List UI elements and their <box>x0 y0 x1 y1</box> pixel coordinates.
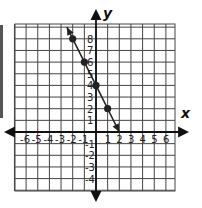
y-axis-label: y <box>103 5 113 21</box>
grid-border <box>15 24 175 191</box>
y-tick-label: 2 <box>87 104 93 115</box>
data-point <box>81 59 88 66</box>
x-tick-label: 6 <box>163 134 169 145</box>
y-tick-label: 7 <box>87 45 93 56</box>
x-tick-label: -5 <box>32 134 42 145</box>
data-point <box>104 105 111 112</box>
axes <box>6 11 187 200</box>
data-point <box>69 35 76 42</box>
x-tick-label: -2 <box>67 134 77 145</box>
y-tick-label: 1 <box>87 115 93 126</box>
x-tick-label: -3 <box>55 134 65 145</box>
x-axis-right-arrow-icon <box>179 128 187 136</box>
y-tick-label: 4 <box>87 80 93 91</box>
y-tick-label: 8 <box>87 34 93 45</box>
coordinate-plane: xy-6-5-4-3-2-112345687654321-1-2-3-4 <box>0 0 202 208</box>
y-axis-up-arrow-icon <box>92 11 100 19</box>
y-axis-down-arrow-icon <box>92 192 100 200</box>
x-axis-left-arrow-icon <box>6 128 14 136</box>
y-tick-label: 6 <box>87 57 93 68</box>
x-tick-label: -4 <box>43 134 53 145</box>
x-tick-label: 1 <box>105 134 111 145</box>
x-tick-label: 2 <box>116 134 122 145</box>
data-point <box>92 82 99 89</box>
x-tick-label: 4 <box>140 134 146 145</box>
x-tick-label: 3 <box>128 134 134 145</box>
x-tick-label: 5 <box>151 134 157 145</box>
x-axis-label: x <box>180 105 191 121</box>
y-tick-label: -2 <box>85 150 95 161</box>
y-tick-label: -4 <box>85 174 95 185</box>
y-tick-label: -3 <box>85 162 95 173</box>
x-tick-label: -6 <box>20 134 30 145</box>
y-tick-label: -1 <box>85 139 95 150</box>
y-tick-label: 3 <box>87 92 93 103</box>
